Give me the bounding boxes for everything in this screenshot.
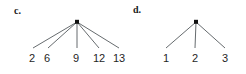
tree-leaf-label: 3 [222, 52, 228, 64]
tree-leaf-label: 9 [73, 52, 79, 64]
tree-leaf-label: 2 [192, 52, 198, 64]
tree-panel-d: d. 123 [136, 0, 246, 74]
tree-leaf-label: 13 [113, 52, 125, 64]
tree-leaf-label: 2 [29, 52, 35, 64]
tree-root-node [75, 20, 79, 24]
tree-edge [77, 22, 119, 48]
tree-root-node [194, 20, 198, 24]
tree-edge [166, 22, 196, 48]
tree-leaf-label: 6 [44, 52, 50, 64]
tree-leaf-label: 12 [93, 52, 105, 64]
tree-edge [77, 22, 99, 48]
tree-edge [196, 22, 225, 48]
tree-edge [195, 22, 196, 48]
tree-edge [33, 22, 77, 48]
tree-leaf-label: 1 [163, 52, 169, 64]
tree-panel-c: c. 2691213 [0, 0, 136, 74]
tree-diagram-figure: c. 2691213 d. 123 [0, 0, 246, 74]
tree-edge [48, 22, 77, 48]
